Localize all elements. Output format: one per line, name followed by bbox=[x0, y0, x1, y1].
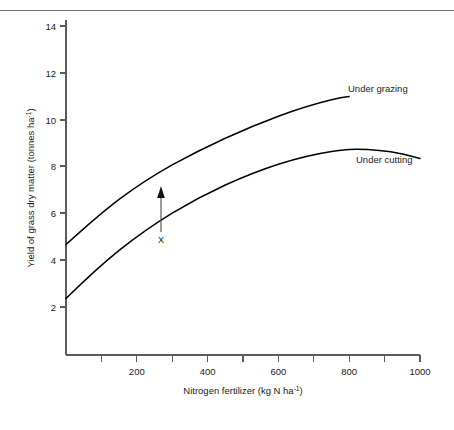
series-label-under-cutting: Under cutting bbox=[356, 154, 413, 165]
x-tick-label: 800 bbox=[341, 366, 357, 377]
figure-container: 14 12 10 8 6 4 2 200 400 600 800 bbox=[0, 0, 454, 430]
chart-canvas: 14 12 10 8 6 4 2 200 400 600 800 bbox=[0, 0, 454, 430]
y-tick-label: 2 bbox=[51, 302, 56, 313]
x-axis-tick-labels: 200 400 600 800 1000 bbox=[129, 366, 431, 377]
y-axis-tick-labels: 14 12 10 8 6 4 2 bbox=[45, 21, 56, 313]
y-axis-title-main: Yield of grass dry matter (tonnes ha bbox=[25, 117, 36, 268]
y-axis-title-tail: ) bbox=[25, 108, 36, 111]
x-axis-ticks bbox=[101, 355, 420, 362]
y-axis-title: Yield of grass dry matter (tonnes ha-1) bbox=[25, 108, 37, 267]
x-axis-title: Nitrogen fertilizer (kg N ha-1) bbox=[183, 385, 302, 397]
x-tick-label: 400 bbox=[200, 366, 216, 377]
annotation-arrow-x: X bbox=[157, 186, 165, 245]
x-tick-label: 600 bbox=[270, 366, 286, 377]
x-axis-title-tail: ) bbox=[300, 385, 303, 396]
y-tick-label: 12 bbox=[45, 68, 56, 79]
series-label-under-grazing: Under grazing bbox=[348, 83, 408, 94]
x-tick-label: 1000 bbox=[409, 366, 430, 377]
y-axis-ticks bbox=[60, 26, 66, 307]
y-tick-label: 10 bbox=[45, 115, 56, 126]
curve-under-grazing bbox=[66, 97, 349, 245]
y-tick-label: 6 bbox=[51, 208, 56, 219]
y-tick-label: 14 bbox=[45, 21, 56, 32]
x-tick-label: 200 bbox=[129, 366, 145, 377]
y-tick-label: 4 bbox=[51, 255, 56, 266]
annotation-label-x: X bbox=[158, 235, 164, 245]
x-axis-title-main: Nitrogen fertilizer (kg N ha bbox=[183, 385, 294, 396]
y-tick-label: 8 bbox=[51, 161, 56, 172]
curve-under-cutting bbox=[66, 149, 420, 298]
annotation-arrow-head-icon bbox=[157, 186, 165, 198]
